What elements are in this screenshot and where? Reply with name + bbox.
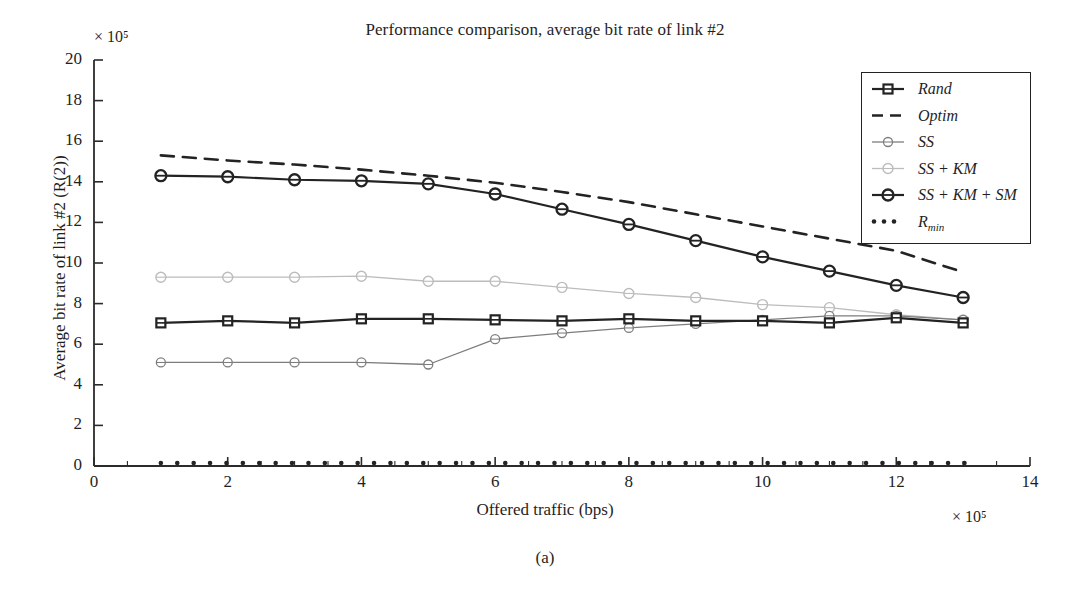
y-tick-label: 8 xyxy=(40,293,82,313)
y-tick-label: 14 xyxy=(40,171,82,191)
y-tick-label: 20 xyxy=(40,49,82,69)
x-tick-label: 10 xyxy=(743,472,783,492)
y-tick-label: 18 xyxy=(40,90,82,110)
x-tick-label: 2 xyxy=(208,472,248,492)
x-tick-label: 8 xyxy=(609,472,649,492)
y-tick-label: 10 xyxy=(40,252,82,272)
x-tick-label: 6 xyxy=(475,472,515,492)
y-tick-label: 6 xyxy=(40,333,82,353)
y-tick-label: 4 xyxy=(40,374,82,394)
x-tick-label: 12 xyxy=(876,472,916,492)
y-tick-label: 0 xyxy=(40,455,82,475)
legend-item-sskmsm[interactable]: SS + KM + SM xyxy=(918,186,1017,204)
figure-root: Performance comparison, average bit rate… xyxy=(0,0,1090,600)
x-tick-label: 14 xyxy=(1010,472,1050,492)
legend-item-rand[interactable]: Rand xyxy=(918,80,952,98)
y-tick-label: 16 xyxy=(40,130,82,150)
x-tick-label: 0 xyxy=(74,472,114,492)
series-rmin xyxy=(159,461,967,466)
legend-item-optim[interactable]: Optim xyxy=(918,107,958,125)
legend-item-sskm[interactable]: SS + KM xyxy=(918,160,977,178)
legend-item-rmin[interactable]: Rmin xyxy=(918,213,944,233)
figure-caption: (a) xyxy=(0,548,1090,568)
y-tick-label: 2 xyxy=(40,414,82,434)
plot-series xyxy=(155,155,968,465)
x-tick-label: 4 xyxy=(341,472,381,492)
legend-item-ss[interactable]: SS xyxy=(918,133,934,151)
y-tick-label: 12 xyxy=(40,211,82,231)
legend-box[interactable]: RandOptimSSSS + KMSS + KM + SMRmin xyxy=(861,72,1031,244)
